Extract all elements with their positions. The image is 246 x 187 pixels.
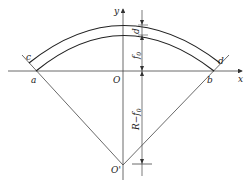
rise-label: f0 bbox=[131, 52, 142, 60]
point-a-label: a bbox=[31, 75, 36, 85]
arrow-d-top bbox=[140, 20, 144, 25]
arrow-r-bottom bbox=[140, 159, 144, 164]
center-label: O' bbox=[111, 165, 121, 175]
arrow-f0-bottom bbox=[140, 66, 144, 71]
outer-arc bbox=[29, 26, 220, 64]
x-axis-label: x bbox=[238, 74, 243, 84]
arrow-r-top bbox=[140, 71, 144, 76]
radial-line-left bbox=[22, 55, 123, 165]
origin-label: O bbox=[113, 75, 121, 85]
point-b-label: b bbox=[207, 75, 213, 85]
point-c-label: c bbox=[26, 52, 31, 62]
y-axis-label: y bbox=[113, 6, 120, 16]
arch-diagram: y x O O' a b c d d f0 R−f0 bbox=[0, 0, 246, 187]
point-d-label: d bbox=[218, 56, 224, 66]
radius-minus-rise-label: R−f0 bbox=[131, 108, 142, 131]
thickness-label: d bbox=[131, 28, 141, 34]
